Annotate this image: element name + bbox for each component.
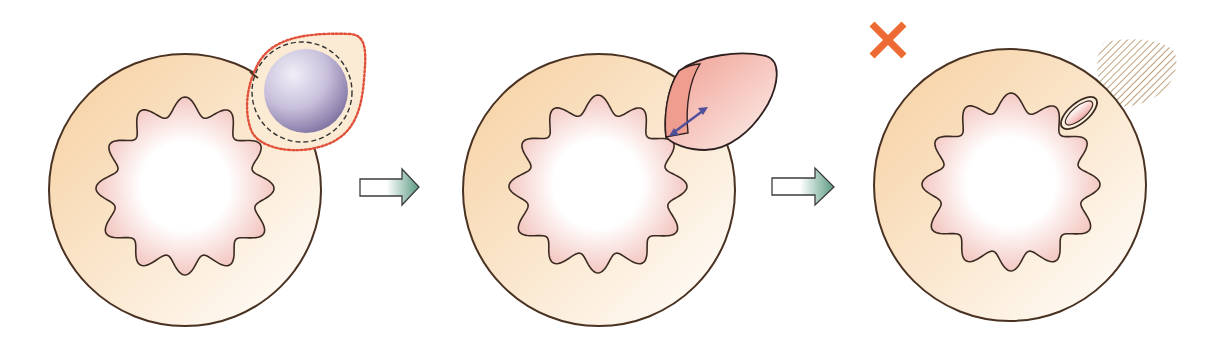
step-arrow-2 — [772, 168, 834, 205]
x-mark-icon — [872, 24, 904, 56]
panel-3 — [872, 24, 1176, 321]
diagram-svg — [0, 0, 1222, 350]
step-arrow-1 — [360, 169, 419, 205]
panel-2 — [463, 54, 777, 326]
attached-purple-cell — [264, 49, 348, 133]
diagram-canvas — [0, 0, 1222, 350]
panel-1 — [49, 34, 365, 326]
